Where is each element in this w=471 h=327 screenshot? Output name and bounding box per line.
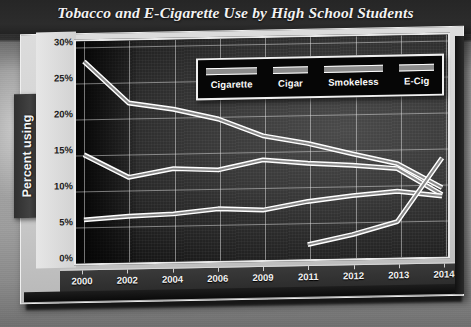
x-tick-label: 2011 xyxy=(298,271,319,282)
legend-item[interactable]: Cigar xyxy=(265,66,315,89)
legend-item[interactable]: Smokeless xyxy=(316,65,392,88)
x-tick-mark xyxy=(354,265,355,269)
y-axis-title: Percent using xyxy=(20,115,34,198)
page-title: Tobacco and E-Cigarette Use by High Scho… xyxy=(0,4,471,22)
legend-label: Smokeless xyxy=(318,76,390,88)
y-tick-label: 5% xyxy=(37,216,73,228)
x-tick-mark xyxy=(173,269,174,273)
legend-label: Cigar xyxy=(267,77,313,89)
y-tick-label: 25% xyxy=(37,72,73,84)
x-tick-label: 2004 xyxy=(162,273,183,284)
legend-label: E-Cig xyxy=(393,75,440,87)
x-tick-label: 2002 xyxy=(117,274,138,285)
series-line-smokeless xyxy=(84,190,442,220)
legend-swatch-icon xyxy=(324,65,384,73)
x-tick-mark xyxy=(444,263,445,267)
x-tick-label: 2013 xyxy=(388,269,409,280)
x-tick-mark xyxy=(82,270,83,274)
y-axis-ticks: 0%5%10%15%20%25%30% xyxy=(36,32,76,269)
y-tick-label: 15% xyxy=(37,144,73,156)
y-tick-label: 30% xyxy=(37,36,73,48)
legend-label: Cigarette xyxy=(200,78,263,90)
slab-right-edge xyxy=(455,36,464,294)
legend-swatch-icon xyxy=(399,64,434,72)
x-tick-label: 2000 xyxy=(71,275,92,286)
legend-item[interactable]: Cigarette xyxy=(198,67,265,90)
x-tick-label: 2009 xyxy=(252,272,273,283)
legend-swatch-icon xyxy=(273,66,307,74)
x-tick-label: 2006 xyxy=(207,273,228,284)
x-tick-mark xyxy=(218,268,219,272)
legend-item[interactable]: E-Cig xyxy=(391,64,442,87)
x-tick-mark xyxy=(399,264,400,268)
x-tick-mark xyxy=(308,266,309,270)
legend: CigaretteCigarSmokelessE-Cig xyxy=(196,54,444,101)
x-tick-label: 2012 xyxy=(343,270,364,281)
x-tick-mark xyxy=(263,267,264,271)
x-tick-label: 2014 xyxy=(433,268,454,279)
y-tick-label: 0% xyxy=(37,252,73,264)
y-tick-label: 10% xyxy=(37,180,73,192)
y-tick-label: 20% xyxy=(37,108,73,120)
legend-swatch-icon xyxy=(206,67,257,75)
chart-screenshot: Tobacco and E-Cigarette Use by High Scho… xyxy=(0,0,471,327)
x-tick-mark xyxy=(127,269,128,273)
